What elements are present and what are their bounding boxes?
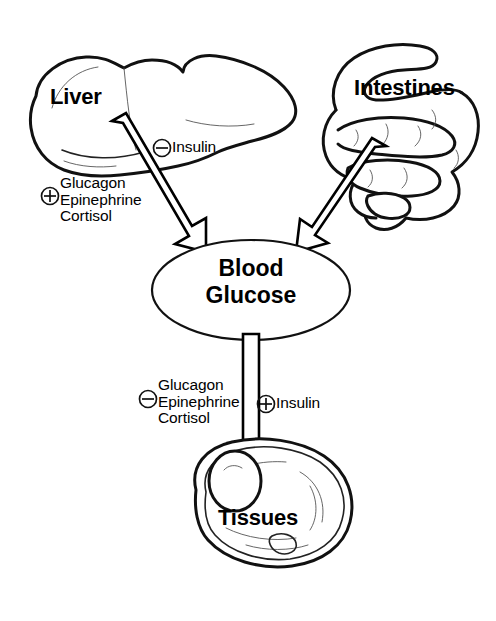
tissues-hormone-epinephrine: Epinephrine: [158, 394, 240, 411]
tissues-hormone-cortisol: Cortisol: [158, 410, 240, 427]
liver-organ-icon: [30, 56, 295, 176]
tissues-label: Tissues: [218, 506, 298, 530]
liver-label: Liver: [50, 85, 102, 109]
liver-hormone-cortisol: Cortisol: [60, 208, 142, 225]
plus-sign-icon-insulin-bottom: [258, 396, 275, 413]
liver-hormone-list: Glucagon Epinephrine Cortisol: [60, 175, 142, 225]
cell-tissue-icon: [195, 439, 352, 567]
insulin-label-liver: Insulin: [172, 139, 216, 156]
intestines-label: Intestines: [354, 76, 455, 100]
blood-glucose-label-line1: Blood: [185, 255, 317, 282]
tissues-hormone-list: Glucagon Epinephrine Cortisol: [158, 377, 240, 427]
minus-sign-icon-tissues: [140, 391, 157, 408]
blood-glucose-label-line2: Glucose: [185, 282, 317, 309]
tissues-hormone-glucagon: Glucagon: [158, 377, 240, 394]
plus-sign-icon-liver: [42, 188, 59, 205]
insulin-label-tissues: Insulin: [276, 395, 320, 412]
intestines-organ-icon: [323, 45, 478, 230]
liver-hormone-epinephrine: Epinephrine: [60, 192, 142, 209]
liver-hormone-glucagon: Glucagon: [60, 175, 142, 192]
glucose-regulation-diagram: Liver Intestines Blood Glucose Tissues I…: [0, 0, 496, 621]
blood-glucose-label: Blood Glucose: [185, 255, 317, 308]
